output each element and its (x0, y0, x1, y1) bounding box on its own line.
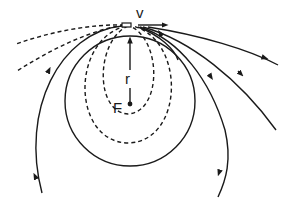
solid-orbit-right-1 (140, 27, 228, 197)
solid-orbit-right-3 (148, 27, 278, 65)
solid-orbit-right-2 (143, 27, 276, 130)
focus-label: F (113, 99, 122, 116)
velocity-label: v (136, 4, 144, 21)
orbit-diagram (0, 0, 294, 211)
focus-point (128, 102, 133, 107)
solid-orbit-left (36, 26, 122, 193)
radius-label: r (125, 70, 130, 87)
launch-point (122, 23, 131, 27)
